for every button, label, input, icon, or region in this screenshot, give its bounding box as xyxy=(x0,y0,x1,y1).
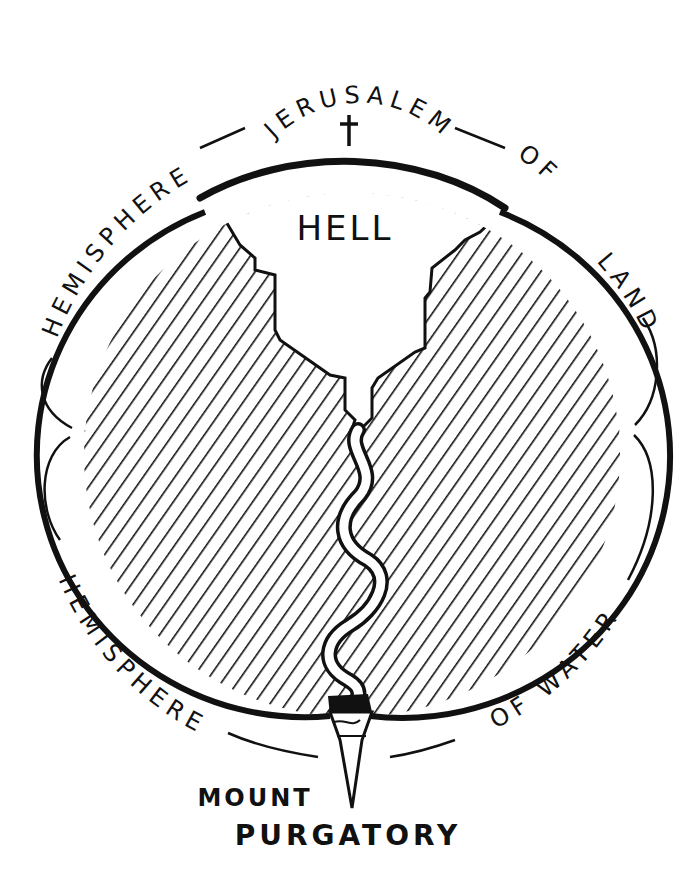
label-purgatory: PURGATORY xyxy=(235,819,462,852)
mount-purgatory-shape xyxy=(330,712,372,808)
label-mount: MOUNT xyxy=(197,784,312,812)
label-of-land-of: OF xyxy=(513,139,566,189)
cross-icon xyxy=(340,115,358,146)
label-jerusalem: JERUSALEM xyxy=(257,81,460,145)
dante-cosmos-diagram: JERUSALEM HEMISPHERE OF LAND HELL HEMISP… xyxy=(0,0,697,894)
label-land: LAND xyxy=(592,247,666,339)
label-hell: HELL xyxy=(297,208,394,248)
